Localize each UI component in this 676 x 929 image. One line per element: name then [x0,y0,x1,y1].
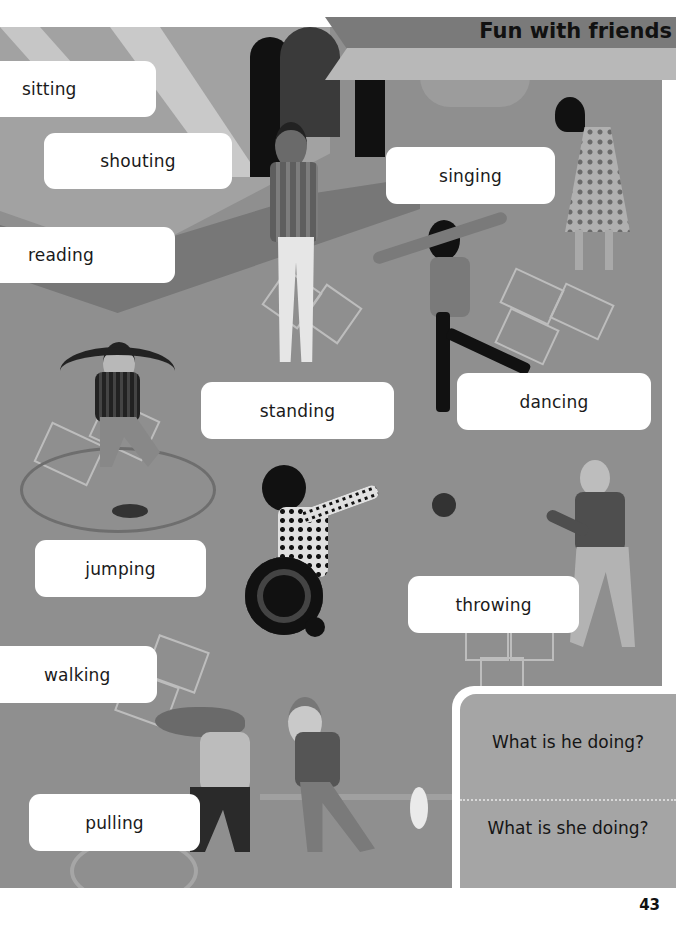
page-title: Fun with friends [479,19,672,43]
label-text: pulling [85,813,144,833]
label-text: sitting [22,79,77,99]
tug-boy-legs [300,782,375,852]
label-walking[interactable]: walking [0,646,157,703]
jumping-boy-arms [60,347,175,395]
throwing-boy-head [580,460,610,496]
wheelchair-girl-arms [300,484,380,525]
shouting-boy-torso [270,162,318,242]
label-text: walking [44,665,111,685]
tug-girl-body [200,732,250,792]
dancing-girl-body [430,257,470,317]
label-shouting[interactable]: shouting [44,133,232,189]
label-text: shouting [100,151,175,171]
label-singing[interactable]: singing [386,147,555,204]
question-she: What is she doing? [460,818,676,838]
question-divider [460,799,676,801]
page-number: 43 [639,896,660,914]
ring-hole [112,504,148,518]
label-jumping[interactable]: jumping [35,540,206,597]
tug-boy-body [295,732,340,787]
question-panel-inner: What is he doing? What is she doing? [460,694,676,888]
wheelchair-small-wheel [305,617,325,637]
title-banner: Fun with friends [325,17,676,80]
pillar [355,67,385,157]
singing-girl-legs [575,230,615,270]
question-panel: What is he doing? What is she doing? [452,686,676,888]
wheelchair-girl-head [262,465,306,511]
jump-ring [20,447,216,533]
cloud [420,77,530,107]
label-throwing[interactable]: throwing [408,576,579,633]
question-he: What is he doing? [460,732,676,752]
label-sitting[interactable]: sitting [0,61,156,117]
dancing-girl-leg [436,312,450,412]
singing-girl-dress [565,127,630,232]
label-standing[interactable]: standing [201,382,394,439]
label-text: singing [439,166,502,186]
label-text: reading [28,245,94,265]
label-text: throwing [455,595,531,615]
label-text: standing [260,401,335,421]
rope-flag [410,787,428,829]
label-text: jumping [85,559,156,579]
label-dancing[interactable]: dancing [457,373,651,430]
throwing-boy-legs [570,547,635,647]
label-text: dancing [519,392,588,412]
throwing-boy-torso [575,492,625,552]
label-pulling[interactable]: pulling [29,794,200,851]
ball [432,493,456,517]
label-reading[interactable]: reading [0,227,175,283]
banner-bottom-band [325,48,676,80]
singing-girl-hair [555,97,585,132]
